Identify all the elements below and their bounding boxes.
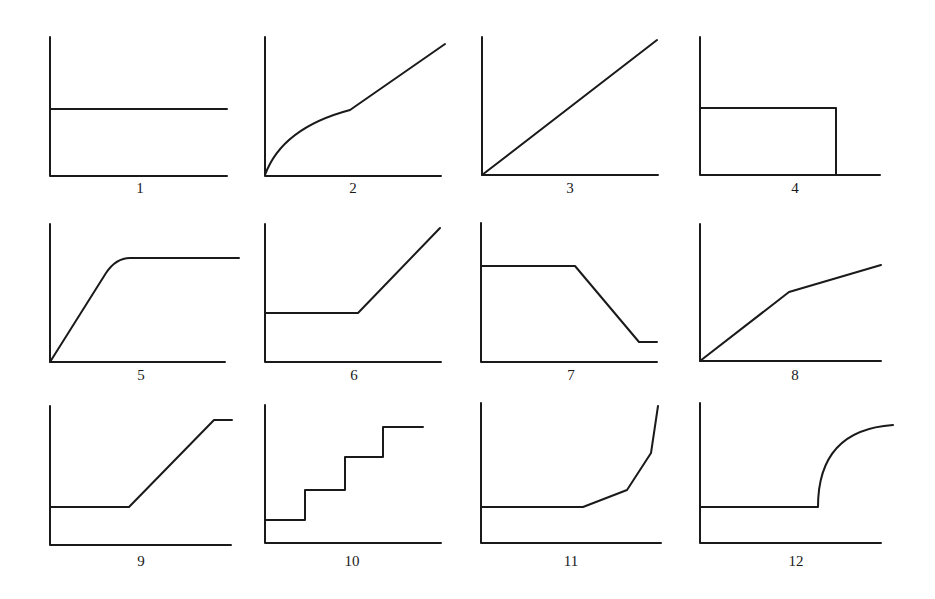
panel-label: 5 [137,367,145,383]
axes [265,405,441,543]
axes [700,37,880,175]
panel-3: 3 [482,37,658,196]
axes [50,224,225,362]
curve-pulse [700,108,836,175]
axes [265,224,441,362]
panel-2: 2 [265,37,445,196]
curve-saturation [50,258,239,362]
axes [265,37,441,176]
axes [481,223,657,362]
panel-label: 2 [349,180,357,196]
curve-steps [265,427,423,520]
panel-12: 12 [700,403,893,569]
panel-label: 9 [137,553,145,569]
panel-label: 4 [791,180,799,196]
panel-label: 10 [345,553,360,569]
curve-concave-then-linear [265,44,445,175]
axes [481,403,661,543]
panel-10: 10 [265,405,441,569]
panel-label: 6 [350,367,358,383]
axes [700,403,881,543]
curve-linear [482,40,657,175]
curve-ramp-plateau [50,420,232,507]
panel-label: 8 [791,367,799,383]
curve-jump-arc [700,425,893,507]
panel-6: 6 [265,224,441,383]
curve-constant-then-rise [265,228,440,313]
panel-9: 9 [50,406,232,569]
curve-decline [481,266,657,342]
panel-4: 4 [700,37,880,196]
panel-11: 11 [481,403,661,569]
panel-label: 1 [136,180,144,196]
curve-accelerating [481,406,658,507]
axes [50,37,227,176]
graph-grid: 1 2 3 4 5 6 7 8 9 [0,0,935,599]
panel-7: 7 [481,223,657,383]
panel-1: 1 [50,37,227,196]
panel-label: 12 [789,553,804,569]
panel-5: 5 [50,224,239,383]
axes [50,406,231,545]
panel-label: 11 [564,553,578,569]
panel-8: 8 [700,224,881,383]
curve-two-slope [700,265,881,361]
panel-label: 3 [566,180,574,196]
panel-label: 7 [567,367,575,383]
